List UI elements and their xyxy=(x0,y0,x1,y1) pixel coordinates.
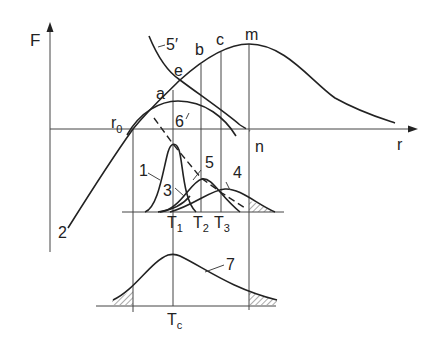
leader-3 xyxy=(175,188,184,196)
y-axis xyxy=(47,22,54,252)
label-n: n xyxy=(255,138,264,155)
leader-7 xyxy=(205,265,224,272)
leader-1 xyxy=(148,173,160,180)
label-t1: T1 xyxy=(167,214,183,234)
label-curve-4: 4 xyxy=(233,164,242,181)
x-axis-label: r xyxy=(397,136,403,153)
label-curve-1: 1 xyxy=(139,162,148,179)
hatched-tail-left xyxy=(112,289,133,305)
curve-7 xyxy=(113,254,277,300)
label-curve-5: 5 xyxy=(205,154,214,171)
y-axis-arrow-icon xyxy=(47,22,54,32)
label-c: c xyxy=(216,31,224,48)
curve-5 xyxy=(160,179,240,212)
label-curve-5-prime: 5′ xyxy=(166,36,178,53)
x-axis xyxy=(50,126,418,133)
label-t3: T3 xyxy=(214,214,230,234)
label-b: b xyxy=(195,41,204,58)
force-distance-diagram: F r r0 a e b c m n 5′ xyxy=(0,0,437,346)
label-a: a xyxy=(156,85,165,102)
curve-1 xyxy=(145,144,196,212)
label-curve-6: 6 xyxy=(175,113,184,130)
label-tc: Tc xyxy=(167,311,183,331)
leader-5 xyxy=(193,170,201,180)
label-curve-3: 3 xyxy=(163,182,172,199)
label-curve-7: 7 xyxy=(226,256,235,273)
label-curve-2: 2 xyxy=(58,224,67,241)
x-axis-arrow-icon xyxy=(408,126,418,133)
label-t2: T2 xyxy=(193,214,209,234)
leader-5-prime xyxy=(158,45,165,47)
y-axis-label: F xyxy=(30,31,40,50)
curve-2 xyxy=(68,44,395,228)
label-r0: r0 xyxy=(111,114,122,135)
label-m: m xyxy=(245,26,258,43)
label-e: e xyxy=(174,62,183,79)
leader-6 xyxy=(186,113,189,119)
